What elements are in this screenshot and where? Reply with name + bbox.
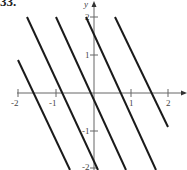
y-tick-label: 1: [85, 50, 90, 60]
x-tick-label: -2: [11, 98, 19, 108]
x-tick-label: -1: [49, 98, 57, 108]
line-c-3.2: [115, 17, 168, 127]
y-tick-label: -2: [82, 162, 90, 170]
x-tick-label: 2: [166, 98, 171, 108]
x-tick-label: 1: [129, 98, 134, 108]
line-c-neg3.2: [18, 60, 70, 170]
y-axis-label: y: [83, 0, 88, 9]
y-axis-arrow-icon: [92, 1, 97, 7]
x-axis-arrow-icon: [181, 91, 187, 96]
y-tick-label: -1: [82, 126, 90, 136]
chart: y -2 -1 1 2 2 1 -1 -2: [0, 0, 187, 170]
